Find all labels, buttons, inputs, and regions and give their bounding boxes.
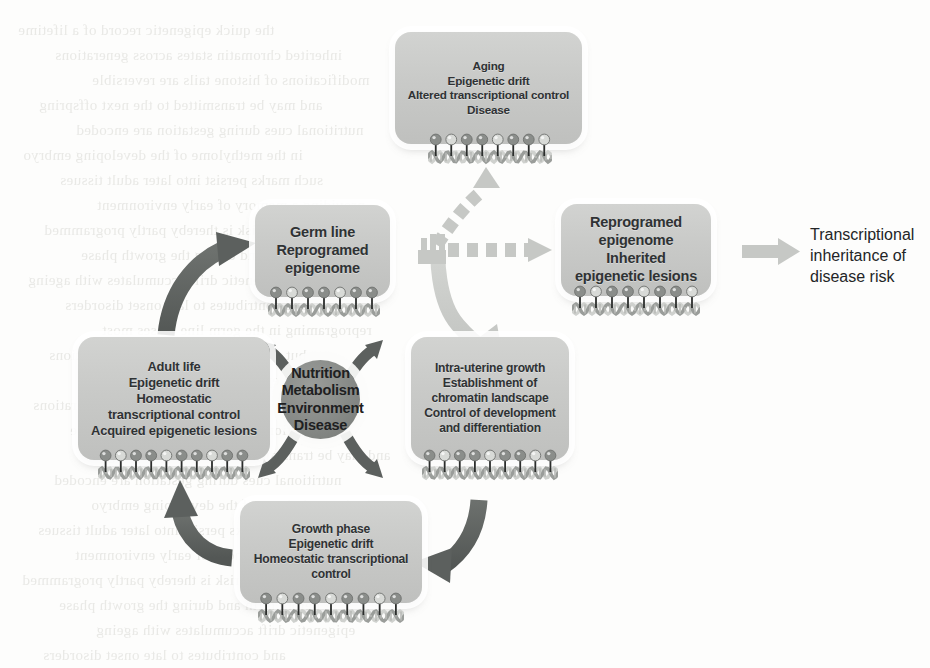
hub-text-line-1: Nutrition [277,365,363,382]
aging-text-line-1: Aging [408,59,569,74]
aging-text-line-4: Disease [408,103,569,118]
bleed-line: and contributes to late onset disorders [43,647,286,664]
intra-uterine-text-line-5: and differentiation [424,421,555,436]
hub-arrow-down-right [345,433,383,478]
intra-uterine-growth-box[interactable]: Intra-uterine growthEstablishment ofchro… [411,337,569,460]
bleed-line: epigenetic drift accumulates with ageing [28,272,287,289]
growth-phase-text-line-1: Growth phase [254,522,409,537]
bleed-line: and may be transmitted to the next offsp… [39,97,323,114]
germ-line-text-line-2: Reprogramed [276,242,368,260]
aging-box[interactable]: AgingEpigenetic driftAltered transcripti… [395,32,582,144]
diagram-canvas: the quick epigenetic record of a lifetim… [0,0,930,668]
caption-text-line-2: inheritance of [810,245,930,266]
caption-text-line-3: disease risk [810,266,930,287]
adult-life-text-line-3: Homeostatic [91,391,257,407]
bleed-line: the quick epigenetic record of a lifetim… [18,22,274,39]
bleed-line: in the methylome of the developing embry… [23,147,303,164]
arrow-intrauterine-to-growthphase [414,500,479,583]
aging-text-line-2: Epigenetic drift [408,74,569,89]
germ-line-box-text: Germ lineReprogramedepigenome [268,220,376,282]
intra-uterine-text-line-3: chromatin landscape [424,391,555,406]
bleed-line: and contributes to late onset disorders [65,297,308,314]
hub-text-line-3: Environment [277,400,363,417]
transcriptional-inheritance-caption: Transcriptionalinheritance ofdisease ris… [810,224,930,287]
bleed-line: modifications of histone tails are rever… [92,72,370,89]
arrow-germline-branch-up-to-aging [437,167,500,245]
growth-phase-text-line-4: control [254,567,409,582]
intra-uterine-text-line-2: Establishment of [424,376,555,391]
adult-life-text-line-2: Epigenetic drift [91,375,257,391]
growth-phase-box[interactable]: Growth phaseEpigenetic driftHomeostatic … [240,501,422,603]
reprogramed-text-line-1: Reprogramed [575,214,697,232]
aging-box-text: AgingEpigenetic driftAltered transcripti… [400,55,577,121]
adult-life-text-line-5: Acquired epigenetic lesions [91,423,257,439]
intra-uterine-text-line-1: Intra-uterine growth [424,361,555,376]
central-hub[interactable]: NutritionMetabolismEnvironmentDisease [281,360,360,439]
reprogramed-text-line-3: Inherited [575,250,697,268]
germ-line-text-line-1: Germ line [276,224,368,242]
caption-text-line-1: Transcriptional [810,224,930,245]
bleed-line: nutritional cues during gestation are en… [54,472,342,489]
adult-life-box[interactable]: Adult lifeEpigenetic driftHomeostatictra… [78,337,270,460]
reprogramed-text-line-2: epigenome [575,232,697,250]
adult-life-text-line-4: transcriptional control [91,407,257,423]
arrow-reprogramed-to-caption [742,238,800,265]
bleed-line: inherited chromatin states across genera… [55,47,342,64]
germ-line-box[interactable]: Germ lineReprogramedepigenome [255,205,390,297]
bleed-line: such marks persist into later adult tiss… [60,172,323,189]
reprogramed-text-line-4: epigenetic lesions [575,268,697,286]
growth-phase-text-line-2: Epigenetic drift [254,537,409,552]
hub-text-line-4: Disease [277,417,363,434]
hub-text-line-2: Metabolism [277,382,363,399]
adult-life-text-line-1: Adult life [91,359,257,375]
intra-uterine-growth-box-text: Intra-uterine growthEstablishment ofchro… [416,357,563,440]
central-hub-text: NutritionMetabolismEnvironmentDisease [277,365,363,435]
arrow-germline-branch-right-to-reprogramed [448,238,552,262]
intra-uterine-text-line-4: Control of development [424,406,555,421]
arrow-growthphase-to-adult [164,480,232,558]
bleed-line: epigenetic drift accumulates with ageing [96,622,355,639]
reprogramed-epigenome-box-text: ReprogramedepigenomeInheritedepigenetic … [567,210,705,290]
adult-life-box-text: Adult lifeEpigenetic driftHomeostatictra… [83,355,265,443]
growth-phase-text-line-3: Homeostatic transcriptional [254,552,409,567]
aging-text-line-3: Altered transcriptional control [408,88,569,103]
germ-line-text-line-3: epigenome [276,260,368,278]
growth-phase-box-text: Growth phaseEpigenetic driftHomeostatic … [246,518,417,586]
arrow-adult-to-germline [166,232,256,335]
bleed-line: nutritional cues during gestation are en… [76,122,364,139]
reprogramed-epigenome-box[interactable]: ReprogramedepigenomeInheritedepigenetic … [561,204,711,296]
